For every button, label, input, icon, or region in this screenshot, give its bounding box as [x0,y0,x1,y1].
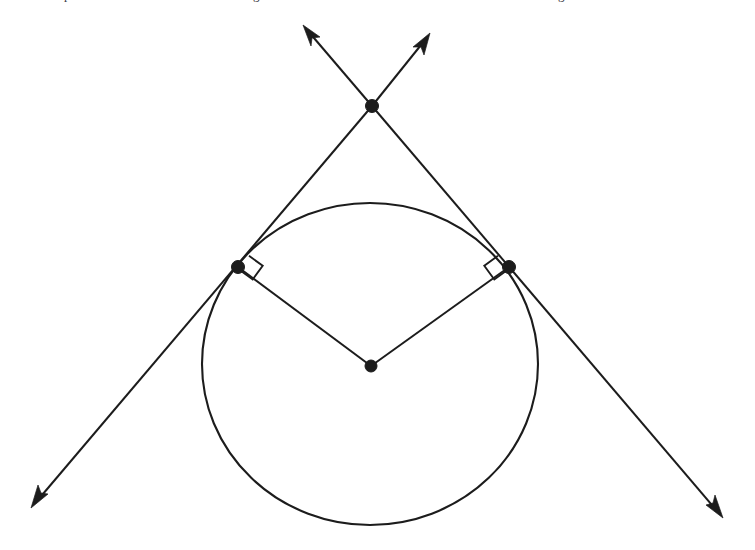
point-tangency-left [232,261,245,274]
arrowhead-lower-right-icon [706,495,723,518]
radius-segment-right [371,267,509,366]
tangent-ray-lower-right [372,106,717,511]
arrowhead-lower-left-icon [31,485,48,508]
point-tangency-right [503,261,516,274]
ray-upper-right [372,40,425,106]
radius-segment-left [238,267,371,366]
point-circle-center [365,360,377,372]
point-external-apex [366,100,379,113]
geometry-canvas [0,0,755,550]
tangent-ray-lower-left [37,106,372,501]
geometry-figure: p g g [0,0,755,550]
ray-upper-left [308,31,372,106]
